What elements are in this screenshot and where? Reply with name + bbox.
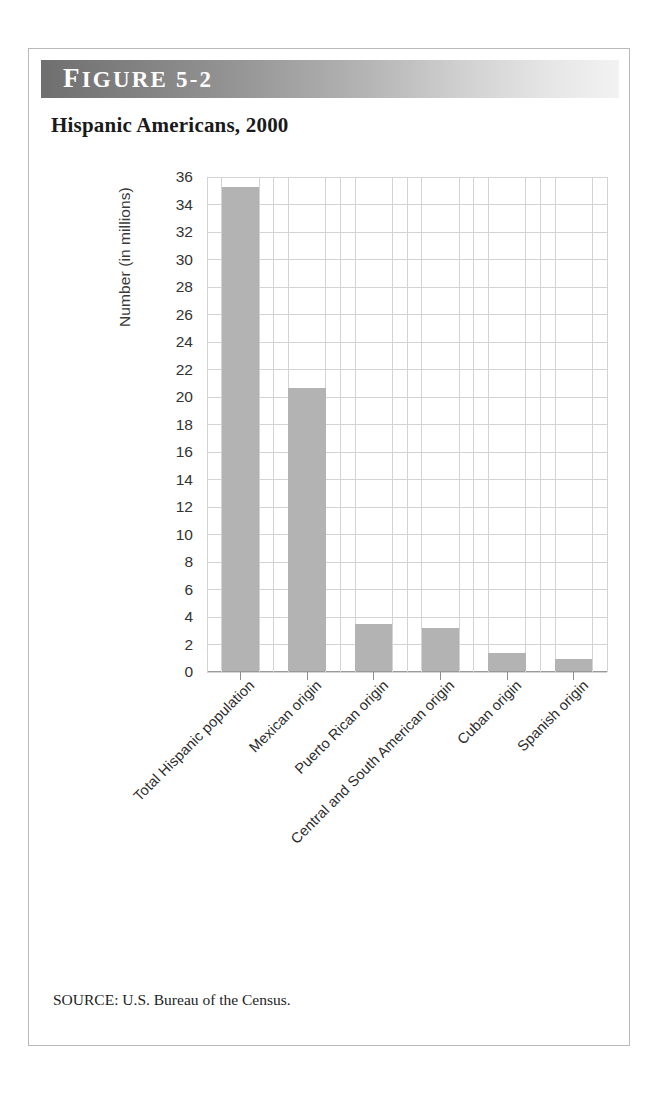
chart-plot-wrapper: Number (in millions) 0246810121416182022… (117, 177, 617, 697)
chart-bar (355, 624, 392, 671)
gridline-vertical (355, 177, 356, 672)
gridline-vertical (473, 177, 474, 672)
figure-label-dropcap: F (63, 63, 82, 93)
chart-bar (488, 653, 525, 671)
x-axis-tick-label: Total Hispanic population (131, 677, 258, 804)
y-axis-tick-label: 14 (176, 471, 193, 489)
figure-header-bar: FIGURE 5-2 (41, 60, 619, 98)
gridline-vertical (540, 177, 541, 672)
y-axis-tick-label: 28 (176, 278, 193, 296)
gridline-vertical (273, 177, 274, 672)
gridline-vertical (555, 177, 556, 672)
y-axis-tick-label: 26 (176, 306, 193, 324)
gridline-vertical (525, 177, 526, 672)
y-axis-tick-label: 34 (176, 196, 193, 214)
y-axis-tick-label: 6 (184, 581, 193, 599)
plot-area (207, 177, 607, 672)
y-axis-tick-label: 8 (184, 553, 193, 571)
figure-label-rest: IGURE 5-2 (82, 67, 214, 92)
gridline-vertical (340, 177, 341, 672)
x-axis-tick-labels: Total Hispanic populationMexican originP… (207, 677, 607, 907)
chart-bar (555, 659, 592, 671)
y-axis-tick-label: 24 (176, 333, 193, 351)
y-axis-tick-label: 4 (184, 608, 193, 626)
gridline-vertical (607, 177, 608, 672)
source-note: SOURCE: U.S. Bureau of the Census. (53, 991, 291, 1009)
y-axis-tick-labels: 024681012141618202224262830323436 (139, 177, 193, 672)
y-axis-tick-label: 16 (176, 443, 193, 461)
y-axis-tick-label: 0 (184, 663, 193, 681)
chart-title: Hispanic Americans, 2000 (51, 113, 289, 138)
y-axis-tick-label: 18 (176, 416, 193, 434)
y-axis-tick-label: 30 (176, 251, 193, 269)
gridline-vertical (392, 177, 393, 672)
y-axis-tick-label: 22 (176, 361, 193, 379)
gridline-vertical (421, 177, 422, 672)
figure-frame: FIGURE 5-2 Hispanic Americans, 2000 Numb… (28, 48, 630, 1046)
x-axis-tick-label: Spanish origin (514, 677, 591, 754)
y-axis-tick-label: 20 (176, 388, 193, 406)
figure-number-label: FIGURE 5-2 (63, 63, 213, 94)
gridline-vertical (459, 177, 460, 672)
y-axis-tick-label: 10 (176, 526, 193, 544)
y-axis-tick-label: 12 (176, 498, 193, 516)
y-axis-tick-label: 36 (176, 168, 193, 186)
y-axis-title: Number (in millions) (116, 97, 134, 327)
gridline-vertical (207, 177, 208, 672)
y-axis-tick-label: 2 (184, 636, 193, 654)
chart-bar (422, 628, 459, 671)
gridline-vertical (592, 177, 593, 672)
x-axis-tick-label: Cuban origin (454, 677, 524, 747)
gridline-vertical (407, 177, 408, 672)
y-axis-tick-label: 32 (176, 223, 193, 241)
gridline-vertical (488, 177, 489, 672)
chart-bar (222, 187, 259, 671)
chart-bar (288, 388, 325, 671)
